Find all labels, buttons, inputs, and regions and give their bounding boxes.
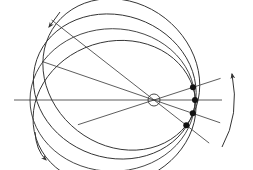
- periapsis-dot-2: [192, 97, 198, 103]
- arrow-precession-right-icon: [222, 74, 234, 147]
- arrow-top-left-icon: [49, 12, 60, 27]
- orbit-ellipse-2: [30, 29, 195, 170]
- arrow-bottom-left-icon: [35, 132, 46, 160]
- periapsis-dot-4: [183, 122, 189, 128]
- orbit-precession-diagram: [0, 0, 253, 170]
- periapsis-dot-1: [190, 84, 196, 90]
- apse-line-1: [78, 78, 221, 124]
- periapsis-dot-3: [190, 110, 196, 116]
- orbit-ellipse-3: [14, 0, 216, 170]
- orbit-ellipse-4: [12, 0, 230, 170]
- orbit-ellipse-1: [14, 20, 215, 170]
